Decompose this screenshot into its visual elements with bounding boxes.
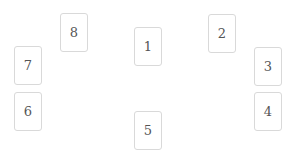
card-number: 8 [70,25,78,40]
card-number: 7 [24,58,32,73]
card-7[interactable]: 7 [14,46,42,85]
card-number: 1 [144,39,152,54]
card-number: 2 [218,26,226,41]
card-2[interactable]: 2 [208,14,236,53]
card-number: 6 [24,104,32,119]
card-1[interactable]: 1 [134,27,162,66]
card-6[interactable]: 6 [14,92,42,131]
card-number: 4 [264,104,272,119]
card-8[interactable]: 8 [60,13,88,52]
card-5[interactable]: 5 [134,111,162,150]
card-number: 3 [264,59,272,74]
card-4[interactable]: 4 [254,92,282,131]
card-3[interactable]: 3 [254,47,282,86]
card-number: 5 [144,123,152,138]
